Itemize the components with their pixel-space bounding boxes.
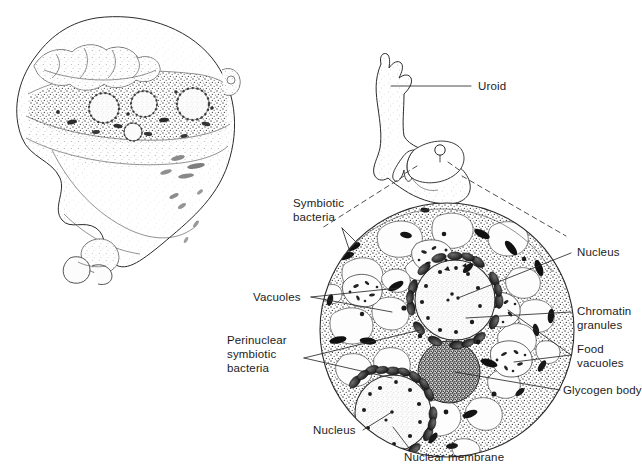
cytoplasm-granule bbox=[522, 257, 527, 262]
label-nucleus-right: Nucleus bbox=[577, 246, 620, 258]
label-perinuclear-line1: Perinuclear bbox=[227, 334, 287, 346]
scientific-illustration: Uroid bbox=[0, 0, 642, 466]
cytoplasm-granule bbox=[476, 340, 481, 345]
label-perinuclear-line3: bacteria bbox=[227, 362, 270, 374]
cytoplasm-granule bbox=[360, 312, 364, 316]
cytoplasm-granule bbox=[442, 232, 447, 237]
label-symbiotic-bacteria-line1: Symbiotic bbox=[293, 197, 344, 209]
cytoplasm-granule bbox=[401, 305, 406, 310]
label-uroid: Uroid bbox=[478, 80, 506, 92]
label-nuclear-membrane: Nuclear membrane bbox=[404, 451, 504, 463]
figure-root: Uroid bbox=[0, 0, 642, 466]
label-food-vacuoles-line1: Food bbox=[577, 343, 604, 355]
cytoplasm-granule bbox=[492, 392, 497, 397]
label-vacuoles: Vacuoles bbox=[253, 291, 301, 303]
cutaway-nucleus bbox=[177, 88, 209, 120]
lateral-bud bbox=[222, 69, 240, 96]
cytoplasm-granule bbox=[418, 334, 423, 339]
cutaway-nucleus bbox=[131, 91, 157, 117]
cutaway-nucleus bbox=[89, 93, 119, 123]
label-chromatin-line1: Chromatin bbox=[577, 305, 631, 317]
label-perinuclear-line2: symbiotic bbox=[227, 348, 276, 360]
label-nucleus-bottom: Nucleus bbox=[313, 424, 356, 436]
label-glycogen-body: Glycogen body bbox=[563, 384, 642, 396]
food-vacuole bbox=[491, 341, 533, 377]
label-chromatin-line2: granules bbox=[577, 319, 622, 331]
cutaway-nucleus bbox=[124, 123, 142, 141]
cytoplasm-granule bbox=[444, 410, 449, 415]
label-symbiotic-bacteria-line2: bacteria bbox=[293, 211, 336, 223]
label-food-vacuoles-line2: vacuoles bbox=[577, 357, 624, 369]
